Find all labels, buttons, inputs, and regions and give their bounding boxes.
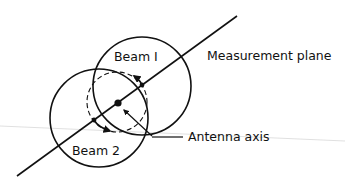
antenna-axis-dot <box>114 99 121 106</box>
beam-diagram: Beam I Beam 2 Measurement plane Antenna … <box>0 0 345 188</box>
measurement-plane-label: Measurement plane <box>207 48 332 63</box>
beam2-label: Beam 2 <box>72 143 120 158</box>
beam1-label: Beam I <box>114 49 158 64</box>
antenna-axis-label: Antenna axis <box>188 129 270 144</box>
